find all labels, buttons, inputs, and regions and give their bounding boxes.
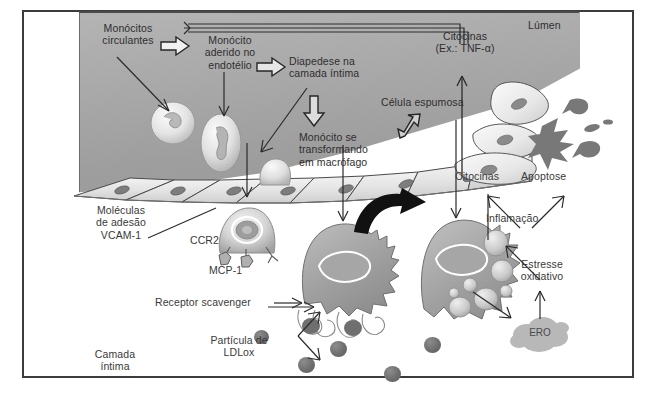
atherosclerosis-diagram: ERO [0,0,657,397]
receptor-scavenger-prefix: Receptor [155,296,201,308]
ldl-particle [424,337,441,353]
label-celula-espumosa: Célula espumosa [381,96,464,108]
label-citocinas: Citocinas [455,170,499,182]
label-citocinas-tnf: Citocinas (Ex.: TNF-α) [418,30,512,55]
transformation-arrow [352,188,438,236]
label-apoptose: Apoptose [521,170,566,182]
label-diapedese: Diapedese na camada íntima [289,55,389,80]
block-arrow-up-right [396,112,422,140]
arrow-diapedesis-down [240,143,254,203]
label-moleculas-adesao: Moléculas de adesão VCAM-1 [83,204,159,241]
ero-label: ERO [509,327,571,338]
label-ccr2: CCR2 [190,234,219,246]
monocyte-diapedesis [216,203,280,257]
arrow-into-macrophage [274,296,308,310]
ldl-particle [330,341,347,357]
arrow-to-monocyte-2 [217,72,231,122]
arrow-ero-to-oxidative [533,287,547,321]
label-lumen: Lúmen [528,19,561,31]
lumen-top-border [79,11,579,13]
arrow-cytokines-up [455,70,469,180]
arrow-foamcell-to-ero [471,290,519,324]
apoptotic-cell-debris [528,92,618,174]
label-mcp1: MCP-1 [209,264,242,276]
label-estresse-oxidativo: Estresse oxidativo [511,258,573,283]
arrow-to-monocyte-1 [115,55,185,119]
label-monocito-macrofago: Monócito se transformando em macrófago [299,131,399,168]
label-monocito-aderido: Monócito aderido no endotélio [190,34,270,71]
label-receptor-scavenger: Receptor scavenger [155,296,251,308]
ldl-particle [384,366,401,382]
receptor-scavenger-italic: scavenger [201,296,250,308]
label-monocitos-circulantes: Monócitos circulantes [89,22,167,47]
label-inflamacao: Inflamação [486,212,538,224]
label-particula-ldlox: Partícula de LDLox [197,334,281,359]
label-camada-intima: Camada íntima [82,348,148,373]
